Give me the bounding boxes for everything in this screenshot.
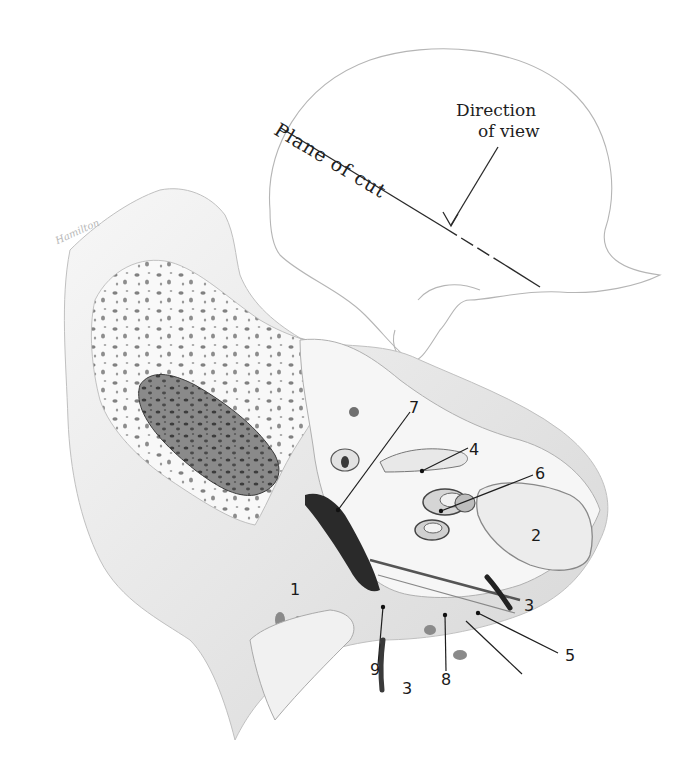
direction-of-view-label-line1: Direction xyxy=(456,100,536,120)
label-3-bottom: 3 xyxy=(402,681,412,697)
direction-arrow xyxy=(443,147,498,226)
temporal-bone-section xyxy=(64,189,607,740)
direction-of-view-label-line2: of view xyxy=(478,121,540,141)
label-5: 5 xyxy=(565,648,575,664)
label-4: 4 xyxy=(469,442,479,458)
label-8: 8 xyxy=(441,672,451,688)
label-3-right: 3 xyxy=(524,598,534,614)
anatomical-figure: Plane of cut Direction of view Hamilton … xyxy=(0,0,685,757)
label-7: 7 xyxy=(409,400,419,416)
label-9: 9 xyxy=(370,662,380,678)
illustration-canvas xyxy=(0,0,685,757)
label-6: 6 xyxy=(535,466,545,482)
label-2: 2 xyxy=(531,528,541,544)
label-1: 1 xyxy=(290,582,300,598)
